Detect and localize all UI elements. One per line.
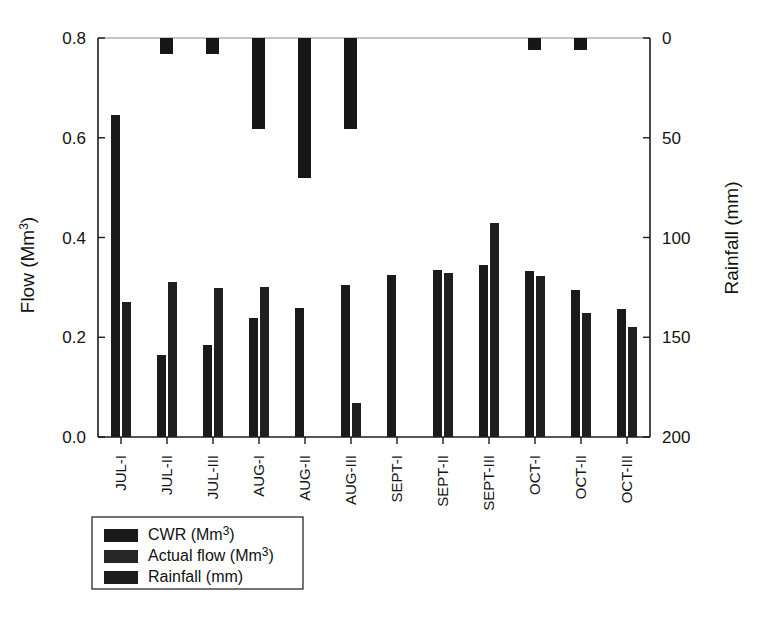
chart-figure: 0.00.20.40.60.8 050100150200 JUL-IJUL-II… [0,0,763,624]
left-tick-label: 0.0 [62,428,86,447]
y2-axis-title: Rainfall (mm) [721,182,742,295]
bar-actual-flow [168,282,177,437]
bar-rainfall [574,38,587,50]
right-tick-label: 100 [662,229,690,248]
legend-label-text: CWR (Mm [148,526,223,543]
legend-label: CWR (Mm3) [148,524,235,543]
y-axis-title-text: Flow (Mm [17,230,38,313]
legend-label-tail: ) [229,526,234,543]
x-axis-ticks [121,437,627,444]
x-axis-category-label: AUG-III [342,455,359,505]
bar-cwr [111,115,120,437]
x-axis-category-label: JUL-II [158,455,175,495]
bar-rainfall [528,38,541,50]
y-axis-title: Flow (Mm3) [17,217,38,313]
bar-rainfall [344,38,357,129]
bar-actual-flow [628,327,637,437]
x-axis-category-label: SEPT-III [480,455,497,511]
bar-cwr [433,270,442,437]
bar-actual-flow [352,403,361,437]
legend-swatch [104,529,138,542]
x-axis-labels: JUL-IJUL-IIJUL-IIIAUG-IAUG-IIAUG-IIISEPT… [112,455,635,511]
x-axis-category-label: AUG-I [250,455,267,497]
bar-actual-flow [214,288,223,437]
left-tick-label: 0.4 [62,229,86,248]
bar-cwr [571,290,580,437]
left-tick-label: 0.8 [62,29,86,48]
y2-axis-title-text: Rainfall (mm) [721,182,742,295]
bar-cwr [341,285,350,437]
chart-canvas: 0.00.20.40.60.8 050100150200 JUL-IJUL-II… [0,0,763,624]
x-axis-category-label: OCT-III [618,455,635,503]
left-tick-label: 0.6 [62,129,86,148]
x-axis-category-label: AUG-II [296,455,313,501]
legend-label-text: Actual flow (Mm [148,547,262,564]
legend-label: Rainfall (mm) [148,568,243,585]
bar-cwr [295,308,304,437]
legend-label-tail: ) [268,547,273,564]
bar-rainfall [206,38,219,54]
bar-rainfall [252,38,265,129]
x-axis-category-label: JUL-III [204,455,221,499]
x-axis-category-label: SEPT-I [388,455,405,503]
plot-frame [98,38,650,437]
svg-text:Flow (Mm3): Flow (Mm3) [17,217,38,313]
bar-cwr [203,345,212,437]
x-axis-category-label: SEPT-II [434,455,451,507]
right-tick-label: 0 [662,29,671,48]
left-tick-label: 0.2 [62,328,86,347]
bar-actual-flow [536,276,545,437]
right-tick-label: 150 [662,328,690,347]
bar-cwr [249,318,258,437]
bar-rainfall [160,38,173,54]
bars-layer [111,38,637,437]
legend-label-text: Rainfall (mm) [148,568,243,585]
x-axis-category-label: JUL-I [112,455,129,491]
right-tick-label: 200 [662,428,690,447]
bar-actual-flow [260,287,269,437]
y-axis-title-tail: ) [17,217,38,223]
bar-cwr [157,355,166,437]
bar-cwr [479,265,488,437]
right-tick-label: 50 [662,129,681,148]
x-axis-category-label: OCT-I [526,455,543,495]
legend-swatch [104,550,138,563]
bar-actual-flow [122,302,131,437]
legend-swatch [104,571,138,584]
bar-cwr [617,309,626,437]
bar-actual-flow [490,223,499,437]
chart-legend: CWR (Mm3)Actual flow (Mm3)Rainfall (mm) [92,517,303,589]
bar-cwr [525,271,534,437]
bar-actual-flow [582,313,591,437]
bar-actual-flow [444,273,453,437]
x-axis-category-label: OCT-II [572,455,589,499]
bar-rainfall [298,38,311,178]
bar-cwr [387,275,396,437]
legend-label: Actual flow (Mm3) [148,545,274,564]
